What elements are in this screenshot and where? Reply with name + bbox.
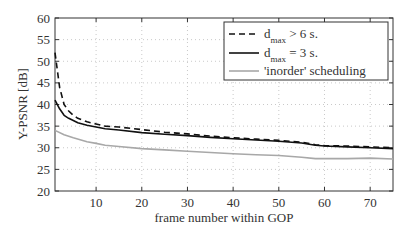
x-tick-label: 50 [272,195,285,210]
y-tick-label: 60 [37,11,50,26]
x-tick-label: 20 [135,195,148,210]
y-axis-label: Y-PSNR [dB] [15,68,30,140]
y-tick-label: 25 [37,162,50,177]
y-tick-label: 20 [37,184,50,199]
y-tick-label: 40 [37,97,50,112]
x-tick-label: 40 [227,195,240,210]
x-tick-label: 60 [318,195,331,210]
x-tick-label: 30 [181,195,194,210]
y-tick-label: 50 [37,54,50,69]
series-line [55,130,393,159]
y-tick-label: 30 [37,140,50,155]
x-tick-label: 70 [364,195,377,210]
series-line [55,100,393,148]
legend-label-inorder: 'inorder' scheduling [264,63,366,78]
y-tick-label: 35 [37,119,50,134]
y-tick-label: 55 [37,32,50,47]
line-chart: 10203040506070 202530354045505560 dmax >… [0,0,412,230]
y-tick-label: 45 [37,75,50,90]
x-axis-label: frame number within GOP [154,210,293,225]
x-tick-label: 10 [90,195,103,210]
legend: dmax > 6 s. dmax = 3 s. 'inorder' schedu… [224,22,388,80]
